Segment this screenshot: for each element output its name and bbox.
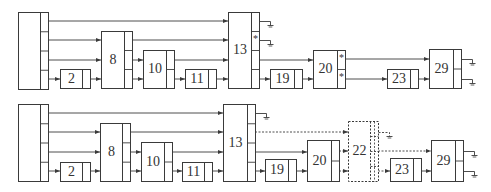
block-label: 23 <box>392 71 406 86</box>
block-label: 11 <box>187 164 200 179</box>
ground-icon <box>462 80 476 86</box>
block-source <box>19 13 49 90</box>
block-2: 2 <box>61 163 91 182</box>
block-label: 2 <box>68 164 75 179</box>
block-11: 11 <box>183 163 213 182</box>
diagram-bottom: 281011131920222329 <box>19 105 478 182</box>
block-19: 19 <box>271 70 303 89</box>
block-label: 10 <box>148 61 162 76</box>
block-22: 22 <box>349 122 379 182</box>
block-source <box>19 105 49 182</box>
block-label: 11 <box>190 71 203 86</box>
block-11: 11 <box>186 70 217 89</box>
block-label: 29 <box>437 153 451 168</box>
ground-icon <box>260 41 274 47</box>
block-frame <box>61 163 91 182</box>
block-23: 23 <box>391 159 422 182</box>
block-8: 8 <box>102 32 133 89</box>
block-19: 19 <box>266 160 297 182</box>
asterisk-mark: * <box>253 33 258 44</box>
block-label: 13 <box>233 42 247 57</box>
block-label: 29 <box>435 61 449 76</box>
asterisk-mark: * <box>339 52 344 63</box>
block-label: 10 <box>146 154 160 169</box>
block-8: 8 <box>101 124 131 182</box>
block-label: 8 <box>108 144 115 159</box>
diagram-layer: 281011*1319**202329281011131920222329 <box>19 13 478 182</box>
block-label: 19 <box>276 71 290 86</box>
block-29: 29 <box>432 141 464 182</box>
block-23: 23 <box>388 70 419 89</box>
asterisk-mark: * <box>339 71 344 82</box>
block-label: 20 <box>319 61 333 76</box>
block-label: 13 <box>229 135 243 150</box>
ground-icon <box>464 172 478 178</box>
block-20: **20 <box>314 51 346 89</box>
block-13: *13 <box>229 13 260 89</box>
block-label: 20 <box>313 153 327 168</box>
diagram-top: 281011*1319**202329 <box>19 13 476 90</box>
block-frame <box>61 70 91 89</box>
block-frame <box>102 32 133 89</box>
block-label: 22 <box>353 143 367 158</box>
ground-icon <box>260 22 274 28</box>
block-20: 20 <box>308 141 340 182</box>
ground-icon <box>379 133 393 139</box>
block-10: 10 <box>144 51 175 89</box>
block-2: 2 <box>61 70 91 89</box>
ground-icon <box>462 60 476 66</box>
ground-icon <box>464 152 478 158</box>
block-label: 8 <box>110 52 117 67</box>
ground-icon <box>256 114 270 120</box>
block-label: 19 <box>270 162 284 177</box>
block-10: 10 <box>142 143 173 182</box>
block-label: 2 <box>68 71 75 86</box>
block-29: 29 <box>430 50 462 89</box>
block-diagram-canvas: 281011*1319**202329281011131920222329 <box>0 0 491 192</box>
block-13: 13 <box>224 105 256 182</box>
block-label: 23 <box>395 162 409 177</box>
block-frame <box>101 124 131 182</box>
block-diagram: 281011*1319**202329281011131920222329 <box>0 0 491 192</box>
